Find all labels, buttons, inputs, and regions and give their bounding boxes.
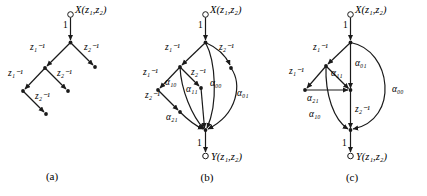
panel-c-coefficient-label-a00: α₀₀ — [392, 84, 404, 94]
panel-a-node-r1 — [93, 65, 97, 69]
panel-c-branch-label-z2: z₂⁻¹ — [354, 104, 370, 114]
panel-b-caption: (b) — [201, 171, 214, 184]
panel-b-coefficient-label-a01: α₀₁ — [237, 88, 249, 98]
panel-b-branch-label-z1-a: z₁⁻¹ — [164, 42, 180, 52]
panel-b-branch-label-z1-b: z₁⁻¹ — [142, 67, 158, 77]
panel-b-coefficient-label-a11: α₁₁ — [186, 84, 198, 94]
panel-a-branch-label-z2-a: z₂⁻¹ — [83, 42, 99, 52]
panel-b: X(z₁,z₂) 1 z₁⁻¹ z₂⁻¹ z₁⁻¹ z₂⁻¹ z₂⁻¹ α₁₀ … — [142, 4, 249, 184]
panel-a-caption: (a) — [46, 170, 59, 183]
signal-flow-graph-figure: X(z₁,z₂) 1 z₁⁻¹ z₂⁻¹ z₁⁻¹ z₂⁻¹ z₂⁻¹ (a) … — [0, 0, 427, 196]
figure-canvas: X(z₁,z₂) 1 z₁⁻¹ z₂⁻¹ z₁⁻¹ z₂⁻¹ z₂⁻¹ (a) … — [0, 0, 427, 196]
panel-b-branch-label-z2-b: z₂⁻¹ — [190, 67, 206, 77]
panel-b-branch-label-z2-c: z₂⁻¹ — [144, 90, 160, 100]
panel-b-output-gain-label: 1 — [197, 138, 202, 148]
panel-c-coefficient-label-a21: α₂₁ — [307, 93, 319, 103]
panel-b-input-label: X(z₁,z₂) — [209, 4, 242, 16]
panel-b-gain-label: 1 — [198, 20, 203, 30]
panel-a-node-l1r — [66, 89, 70, 93]
panel-a-branch-label-z2-c: z₂⁻¹ — [34, 91, 50, 101]
panel-c-gain-label: 1 — [343, 20, 348, 30]
panel-b-output-label: Y(z₁,z₂) — [211, 151, 242, 163]
panel-c-branch-z1-1 — [328, 43, 351, 65]
panel-a-branch-z1-1 — [47, 43, 71, 67]
panel-b-coefficient-label-a21: α₂₁ — [166, 112, 178, 122]
panel-c-output-gain-label: 1 — [342, 138, 347, 148]
panel-b-output-terminal — [203, 153, 209, 159]
panel-b-branch-label-z2-a: z₂⁻¹ — [218, 42, 234, 52]
panel-b-coefficient-branch-a11 — [201, 88, 205, 128]
panel-b-coefficient-label-a00: α₀₀ — [210, 78, 222, 88]
panel-c-coefficient-label-a11: α₁₁ — [331, 68, 343, 78]
panel-c: X(z₁,z₂) 1 z₁⁻¹ z₁⁻¹ α₁₁ α₂₁ α₀₁ z₂⁻¹ α₁… — [288, 4, 404, 184]
panel-c-coefficient-label-a10: α₁₀ — [309, 109, 321, 119]
panel-c-input-label: X(z₁,z₂) — [354, 4, 387, 16]
panel-b-input-terminal — [203, 12, 209, 18]
panel-a: X(z₁,z₂) 1 z₁⁻¹ z₂⁻¹ z₁⁻¹ z₂⁻¹ z₂⁻¹ (a) — [7, 4, 107, 183]
panel-a-branch-label-z1-b: z₁⁻¹ — [7, 68, 23, 78]
panel-b-branch-z1-1 — [182, 43, 206, 66]
panel-b-coefficient-branch-a21 — [180, 112, 203, 129]
panel-c-input-terminal — [348, 12, 354, 18]
panel-c-output-terminal — [348, 153, 354, 159]
panel-c-branch-label-z1-b: z₁⁻¹ — [288, 66, 304, 76]
panel-a-input-terminal — [68, 12, 74, 18]
panel-c-branch-z1-2 — [307, 66, 326, 88]
panel-a-input-label: X(z₁,z₂) — [74, 4, 107, 16]
panel-a-branch-label-z2-b: z₂⁻¹ — [56, 68, 72, 78]
panel-c-coefficient-label-a01: α₀₁ — [355, 58, 367, 68]
panel-c-caption: (c) — [346, 171, 359, 184]
panel-a-gain-label: 1 — [63, 20, 68, 30]
panel-c-branch-label-z1-a: z₁⁻¹ — [312, 42, 328, 52]
panel-c-output-label: Y(z₁,z₂) — [356, 151, 387, 163]
panel-b-coefficient-label-a10: α₁₀ — [165, 77, 177, 87]
panel-c-coefficient-branch-a00 — [351, 43, 386, 130]
panel-a-branch-z1-2 — [25, 68, 45, 89]
panel-a-branch-label-z1-a: z₁⁻¹ — [29, 42, 45, 52]
panel-a-node-l2d — [44, 112, 48, 116]
panel-b-branch-z2-3 — [158, 90, 178, 110]
